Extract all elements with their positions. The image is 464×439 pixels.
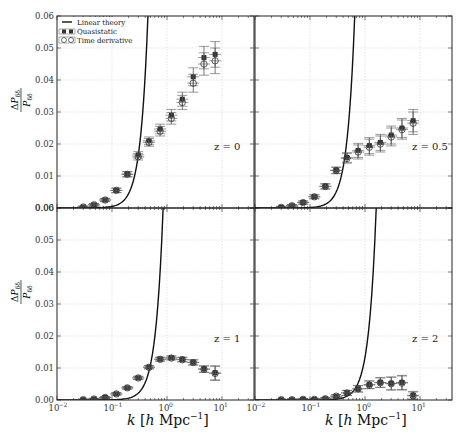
svg-text:ΔPδδ: ΔPδδ bbox=[10, 90, 21, 110]
quasistatic-series bbox=[77, 42, 221, 210]
y-axis-title: ΔPδδPδδ bbox=[10, 280, 33, 304]
grid bbox=[57, 208, 254, 400]
ticks bbox=[57, 16, 254, 208]
panel-frame bbox=[57, 208, 254, 400]
quasistatic-series bbox=[77, 355, 221, 402]
legend-filled-marker-icon bbox=[62, 30, 66, 34]
panel-label: z = 0 bbox=[214, 141, 240, 152]
svg-text:Pδδ: Pδδ bbox=[22, 285, 33, 300]
y-axis-title: ΔPδδPδδ bbox=[10, 88, 33, 112]
x-tick-exponent: 0 bbox=[367, 401, 371, 408]
y-tick-label: 0.02 bbox=[35, 139, 54, 149]
ticks bbox=[255, 208, 452, 400]
legend-filled-marker-icon bbox=[69, 30, 73, 34]
time-derivative-series bbox=[77, 355, 221, 403]
panel-frame bbox=[57, 16, 254, 208]
y-tick-label: 0.01 bbox=[35, 363, 54, 373]
y-tick-label: 0.03 bbox=[35, 107, 54, 117]
y-tick-label: 0.06 bbox=[35, 11, 54, 21]
y-tick-label: 0.04 bbox=[35, 75, 54, 85]
time-derivative-series bbox=[77, 48, 221, 210]
x-tick-exponent: −1 bbox=[114, 401, 123, 408]
y-tick-label: 0.01 bbox=[35, 171, 54, 181]
panel-label: z = 1 bbox=[214, 333, 240, 344]
ticks bbox=[57, 208, 254, 400]
legend-label-time-derivative: Time derivative bbox=[77, 37, 132, 45]
x-tick-exponent: 1 bbox=[224, 401, 228, 408]
legend-label-linear: Linear theory bbox=[77, 19, 125, 27]
panel-z2: z = 2 bbox=[255, 208, 452, 403]
x-tick-label: 10 bbox=[412, 403, 423, 413]
legend-label-quasistatic: Quasistatic bbox=[77, 28, 117, 36]
quasistatic-series bbox=[275, 375, 419, 402]
panel-z0: z = 0 bbox=[57, 16, 254, 210]
time-derivative-series bbox=[275, 112, 419, 211]
x-axis-title: k [h Mpc−1] bbox=[325, 411, 407, 428]
x-tick-exponent: −1 bbox=[312, 401, 321, 408]
svg-text:Pδδ: Pδδ bbox=[22, 93, 33, 108]
x-tick-exponent: 1 bbox=[422, 401, 426, 408]
grid bbox=[255, 208, 452, 400]
panel-frame bbox=[255, 208, 452, 400]
panel-z0p5: z = 0.5 bbox=[255, 16, 452, 211]
y-tick-label: 0.04 bbox=[35, 267, 54, 277]
y-tick-label: 0.05 bbox=[35, 235, 54, 245]
legend: Linear theoryQuasistaticTime derivative bbox=[59, 17, 132, 45]
panel-label: z = 2 bbox=[412, 333, 438, 344]
x-axis-title: k [h Mpc−1] bbox=[127, 411, 209, 428]
panel-label: z = 0.5 bbox=[412, 141, 448, 152]
chart: z = 0z = 0.5z = 1z = 20.010.020.030.040.… bbox=[0, 0, 464, 439]
x-tick-label: 10 bbox=[214, 403, 225, 413]
y-tick-label: 0.03 bbox=[35, 299, 54, 309]
y-tick-labels: 0.010.020.030.040.050.060.000.010.020.03… bbox=[35, 11, 54, 405]
y-tick-label: 0.02 bbox=[35, 331, 54, 341]
x-tick-exponent: 0 bbox=[169, 401, 173, 408]
y-tick-label: 0.00 bbox=[35, 203, 54, 213]
svg-text:ΔPδδ: ΔPδδ bbox=[10, 282, 21, 302]
y-tick-label: 0.05 bbox=[35, 43, 54, 53]
x-tick-exponent: −2 bbox=[257, 401, 266, 408]
grid bbox=[57, 16, 254, 208]
x-tick-exponent: −2 bbox=[59, 401, 68, 408]
panel-z1: z = 1 bbox=[57, 208, 254, 403]
